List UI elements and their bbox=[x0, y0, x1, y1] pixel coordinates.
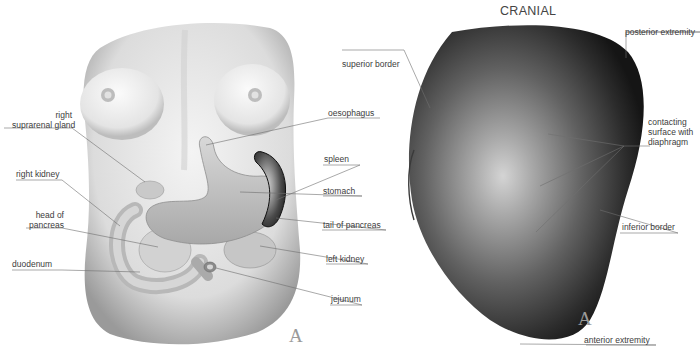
label-jejunum: jejunum bbox=[331, 294, 361, 304]
label-anterior-extremity: anterior extremity bbox=[584, 335, 650, 345]
label-line: surface with bbox=[648, 127, 693, 137]
plate-letter-right: A bbox=[578, 308, 592, 330]
spleen-illustration bbox=[409, 25, 644, 339]
label-line: contacting bbox=[648, 117, 693, 127]
label-posterior-extremity: posterior extremity bbox=[625, 27, 695, 37]
label-inferior-border: inferior border bbox=[622, 222, 675, 232]
label-right-suprarenal-gland: right suprarenal gland bbox=[12, 110, 72, 130]
plate-letter-left: A bbox=[289, 325, 303, 347]
label-left-kidney: left kidney bbox=[326, 254, 364, 264]
label-contacting-surface-with-diaphragm: contacting surface with diaphragm bbox=[648, 117, 693, 147]
label-line: suprarenal gland bbox=[12, 120, 72, 130]
label-duodenum: duodenum bbox=[12, 259, 52, 269]
label-head-of-pancreas: head of pancreas bbox=[12, 210, 64, 230]
label-oesophagus: oesophagus bbox=[328, 108, 374, 118]
label-stomach: stomach bbox=[323, 186, 355, 196]
label-superior-border: superior border bbox=[342, 59, 400, 69]
label-line: pancreas bbox=[12, 220, 64, 230]
label-tail-of-pancreas: tail of pancreas bbox=[323, 220, 381, 230]
label-line: diaphragm bbox=[648, 137, 693, 147]
orientation-label: CRANIAL bbox=[500, 4, 556, 18]
label-spleen: spleen bbox=[324, 154, 349, 164]
label-right-kidney: right kidney bbox=[16, 169, 59, 179]
label-line: head of bbox=[12, 210, 64, 220]
label-line: right bbox=[12, 110, 72, 120]
